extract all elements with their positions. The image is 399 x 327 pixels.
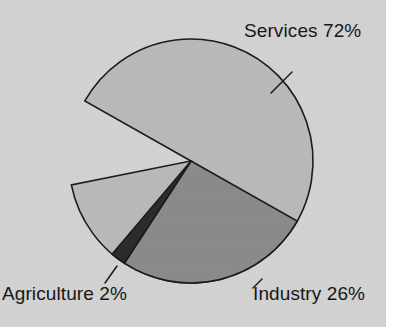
pie-chart-figure: Services 72% Industry 26% Agriculture 2% xyxy=(0,0,399,327)
pie-label-industry: Industry 26% xyxy=(253,283,365,305)
pie-label-agriculture: Agriculture 2% xyxy=(2,283,127,305)
leader-line-agriculture xyxy=(105,266,117,283)
page-margin-right xyxy=(386,0,399,327)
pie-label-services: Services 72% xyxy=(244,20,361,42)
pie-chart-canvas xyxy=(0,0,399,327)
